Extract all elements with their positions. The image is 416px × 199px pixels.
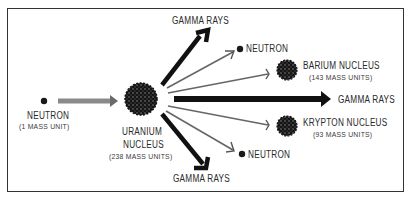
barium-arrow-icon xyxy=(168,69,269,93)
uranium-mass-label: (238 MASS UNITS) xyxy=(109,152,172,161)
neutron-bottom-icon xyxy=(239,151,245,157)
barium-mass-label: (143 MASS UNITS) xyxy=(309,73,372,82)
uranium-label-line1: URANIUM xyxy=(122,126,162,137)
gamma-arrow-top-icon xyxy=(162,30,208,85)
barium-nucleus-label: BARIUM NUCLEUS xyxy=(303,60,380,71)
incoming-neutron-mass-label: (1 MASS UNIT) xyxy=(19,122,70,131)
incoming-neutron-label: NEUTRON xyxy=(27,110,69,121)
neutron-bottom-label: NEUTRON xyxy=(248,149,290,160)
gamma-rays-top-label: GAMMA RAYS xyxy=(172,15,229,26)
barium-nucleus-icon xyxy=(277,60,297,80)
uranium-nucleus-icon xyxy=(125,83,157,115)
krypton-nucleus-icon xyxy=(277,116,297,136)
incoming-arrow-icon xyxy=(58,95,118,107)
krypton-nucleus-label: KRYPTON NUCLEUS xyxy=(303,117,387,128)
gamma-arrow-right-icon xyxy=(174,91,331,107)
neutron-top-label: NEUTRON xyxy=(246,43,288,54)
gamma-rays-bottom-label: GAMMA RAYS xyxy=(173,173,230,184)
krypton-arrow-icon xyxy=(168,106,269,130)
incoming-neutron-icon xyxy=(41,98,47,104)
uranium-label-line2: NUCLEUS xyxy=(123,139,164,150)
gamma-rays-right-label: GAMMA RAYS xyxy=(338,94,395,105)
krypton-mass-label: (93 MASS UNITS) xyxy=(313,130,372,139)
neutron-top-icon xyxy=(237,46,243,52)
